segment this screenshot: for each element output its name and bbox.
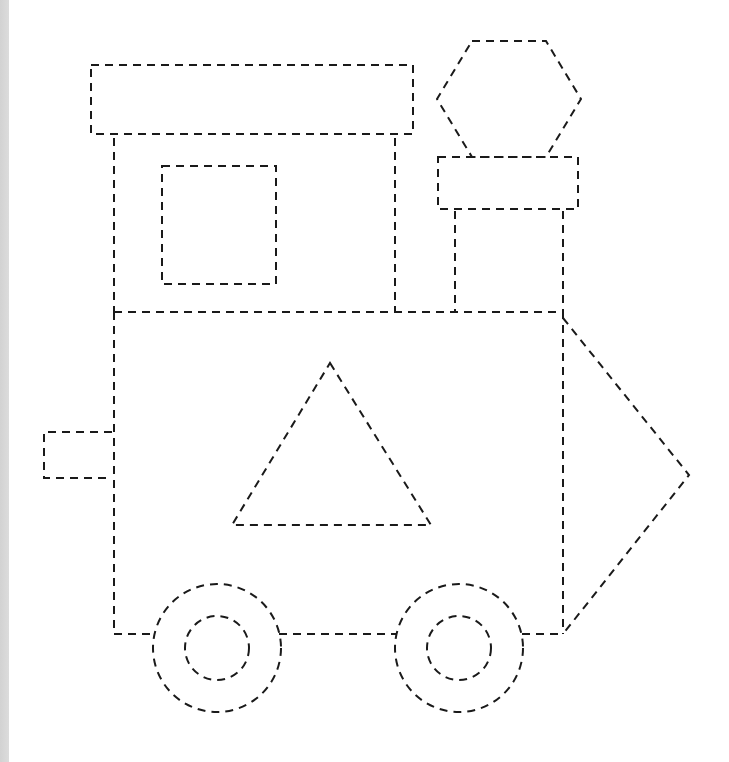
body-triangle (232, 363, 431, 525)
rear-bumper (44, 432, 112, 478)
rear-wheel (153, 584, 281, 712)
cab-window (162, 166, 276, 284)
front-wheel (395, 584, 523, 712)
smokestack-cap (438, 157, 578, 209)
front-wheel-hub (427, 616, 491, 680)
boiler-body (114, 312, 563, 634)
train-worksheet (0, 0, 729, 762)
rear-wheel-hub (185, 616, 249, 680)
cowcatcher (563, 318, 689, 634)
roof-rect (91, 65, 413, 134)
smokestack-hexagon (437, 41, 581, 157)
